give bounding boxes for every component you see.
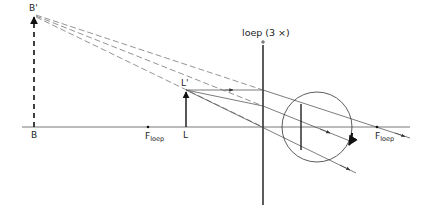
ray-diagram: B' B L' L Floep Floep loep (3 ×) xyxy=(0,0,428,208)
label-focal-right: Floep xyxy=(375,132,394,141)
ray-3-arrow xyxy=(340,165,350,170)
label-object-top: L' xyxy=(181,79,189,88)
label-focal-left: Floep xyxy=(145,132,164,141)
focal-right-sub: loep xyxy=(380,135,394,143)
retina-image xyxy=(349,133,352,145)
dashed-extension-1 xyxy=(36,15,263,90)
ray-2-in xyxy=(186,90,263,106)
ray-1-out-arrow xyxy=(395,133,405,137)
dashed-extension-2 xyxy=(36,16,263,106)
dashed-extension-3 xyxy=(36,17,263,127)
ray-2-arrow xyxy=(320,129,330,133)
focal-point-left xyxy=(147,126,150,129)
label-lens: loep (3 ×) xyxy=(242,28,290,38)
diagram-canvas xyxy=(0,0,428,208)
ray-2-out xyxy=(263,106,350,141)
focal-left-sub: loep xyxy=(150,135,164,143)
label-object-base: L xyxy=(183,131,188,140)
label-image-base: B xyxy=(31,131,37,140)
ray-1-out xyxy=(263,90,410,138)
ray-3 xyxy=(186,90,356,173)
focal-point-right xyxy=(376,126,379,129)
label-image-top: B' xyxy=(29,4,38,13)
